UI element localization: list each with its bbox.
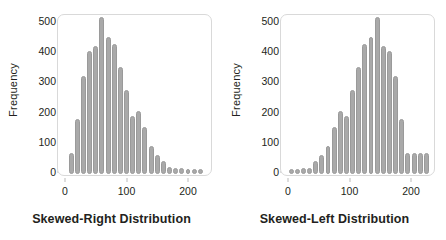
histogram-bar xyxy=(418,153,423,174)
histogram-bar xyxy=(87,51,92,174)
x-tick-label: 0 xyxy=(62,185,68,197)
histogram-bar xyxy=(149,146,154,174)
histogram-bar xyxy=(350,90,355,174)
chart-title-right: Skewed-Left Distribution xyxy=(223,212,446,226)
histogram-bar xyxy=(106,37,111,174)
x-tick-mark xyxy=(411,178,412,182)
histogram-bar xyxy=(393,76,398,174)
histogram-bar xyxy=(130,116,135,174)
x-tick-label: 100 xyxy=(341,185,359,197)
histogram-bar xyxy=(289,169,294,174)
histogram-bar xyxy=(338,111,343,174)
x-tick-mark xyxy=(126,178,127,182)
two-histogram-figure: Frequency 0100200300400500 0100200 Skewe… xyxy=(0,0,446,240)
histogram-bar xyxy=(326,146,331,174)
panel-skewed-right: Frequency 0100200300400500 0100200 Skewe… xyxy=(0,0,223,240)
histogram-bar xyxy=(99,17,104,174)
histogram-bar xyxy=(155,155,160,174)
histogram-bar xyxy=(301,168,306,174)
histogram-bar xyxy=(198,169,203,174)
x-tick-label: 200 xyxy=(402,185,420,197)
x-tick-mark xyxy=(65,178,66,182)
histogram-bar xyxy=(344,116,349,174)
x-tick-mark xyxy=(288,178,289,182)
x-tick-label: 100 xyxy=(118,185,136,197)
histogram-bar xyxy=(124,90,129,174)
histogram-bar xyxy=(356,67,361,174)
x-tick-mark xyxy=(188,178,189,182)
histogram-bar xyxy=(136,111,141,174)
histogram-bar xyxy=(313,161,318,174)
histogram-bar xyxy=(161,161,166,174)
histogram-bar xyxy=(424,153,429,174)
histogram-bar xyxy=(381,46,386,174)
histogram-bar xyxy=(319,155,324,174)
x-tick-mark xyxy=(349,178,350,182)
histogram-bar xyxy=(75,119,80,174)
histogram-bar xyxy=(81,76,86,174)
histogram-bar xyxy=(399,119,404,174)
histogram-bar xyxy=(112,44,117,174)
histogram-bar xyxy=(69,153,74,174)
histogram-bar xyxy=(307,168,312,174)
histogram-bar xyxy=(405,153,410,174)
x-tick-label: 200 xyxy=(179,185,197,197)
x-tick-label: 0 xyxy=(285,185,291,197)
histogram-bar xyxy=(412,153,417,174)
histogram-bar xyxy=(375,17,380,174)
histogram-bar xyxy=(192,169,197,174)
histogram-bar xyxy=(118,67,123,174)
histogram-bar xyxy=(167,167,172,174)
panel-skewed-left: Frequency 0100200300400500 0100200 Skewe… xyxy=(223,0,446,240)
histogram-bar xyxy=(142,127,147,174)
histogram-bar xyxy=(295,169,300,174)
histogram-bar xyxy=(93,46,98,174)
histogram-bar xyxy=(362,44,367,174)
histogram-bar xyxy=(369,37,374,174)
chart-title-left: Skewed-Right Distribution xyxy=(0,212,223,226)
histogram-bar xyxy=(173,168,178,174)
histogram-bar xyxy=(332,127,337,174)
histogram-bar xyxy=(387,51,392,174)
